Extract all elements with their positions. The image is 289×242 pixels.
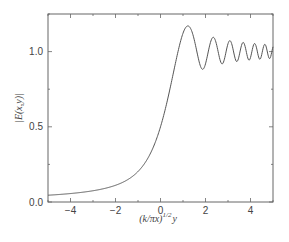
- y-tick-label: 0.5: [29, 121, 43, 132]
- x-tick-label: 4: [248, 205, 254, 216]
- plot-frame: [48, 14, 273, 202]
- y-tick-labels: 0.00.51.0: [29, 46, 43, 207]
- x-tick-label: −2: [110, 205, 122, 216]
- axis-ticks: [48, 14, 273, 202]
- x-axis-label: (k/πx)1/2y: [139, 211, 177, 225]
- y-tick-label: 0.0: [29, 197, 43, 208]
- chart: −4−2024 0.00.51.0 (k/πx)1/2y |E(x,y)|: [0, 0, 289, 242]
- data-line: [48, 26, 273, 195]
- x-tick-label: 2: [203, 205, 209, 216]
- x-tick-label: −4: [65, 205, 77, 216]
- y-axis-label: |E(x,y)|: [13, 93, 25, 123]
- y-tick-label: 1.0: [29, 46, 43, 57]
